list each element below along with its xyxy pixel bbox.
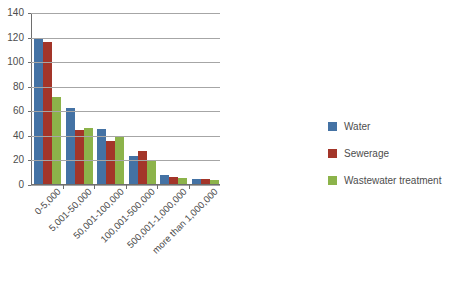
bar-group bbox=[160, 13, 187, 184]
legend-swatch-icon bbox=[328, 176, 337, 185]
y-axis-tick bbox=[28, 38, 31, 39]
bar-group bbox=[192, 13, 219, 184]
bar bbox=[160, 175, 169, 184]
y-axis-tick bbox=[28, 111, 31, 112]
bar bbox=[75, 130, 84, 184]
legend-swatch-icon bbox=[328, 149, 337, 158]
gridline bbox=[31, 13, 220, 14]
y-axis-tick bbox=[28, 136, 31, 137]
y-axis-tick bbox=[28, 160, 31, 161]
bar bbox=[52, 97, 61, 184]
bar bbox=[192, 179, 201, 184]
y-axis-tick bbox=[28, 62, 31, 63]
legend-label: Sewerage bbox=[344, 148, 389, 159]
bar-chart: 020406080100120140 0-5,0005,001-50,00050… bbox=[0, 0, 457, 282]
bar bbox=[106, 141, 115, 184]
x-axis-category-labels: 0-5,0005,001-50,00050,001-100,000100,001… bbox=[31, 186, 231, 282]
bar bbox=[147, 161, 156, 184]
gridline bbox=[31, 38, 220, 39]
bar bbox=[210, 180, 219, 184]
plot-area bbox=[31, 13, 220, 185]
plot-wrapper: 020406080100120140 0-5,0005,001-50,00050… bbox=[0, 0, 320, 282]
bar-groups bbox=[32, 13, 220, 184]
legend-item[interactable]: Water bbox=[328, 113, 457, 140]
bar-group bbox=[34, 13, 61, 184]
y-axis-tick-label: 60 bbox=[13, 106, 24, 116]
gridline bbox=[31, 160, 220, 161]
bar bbox=[97, 129, 106, 184]
y-axis-tick-label: 20 bbox=[13, 155, 24, 165]
y-axis-tick bbox=[28, 13, 31, 14]
y-axis-tick bbox=[28, 87, 31, 88]
legend-label: Wastewater treatment bbox=[344, 175, 441, 186]
bar bbox=[66, 108, 75, 184]
legend-item[interactable]: Wastewater treatment bbox=[328, 167, 457, 194]
gridline bbox=[31, 111, 220, 112]
gridline bbox=[31, 87, 220, 88]
legend-swatch-icon bbox=[328, 122, 337, 131]
legend-label: Water bbox=[344, 121, 370, 132]
y-axis-tick-label: 120 bbox=[7, 33, 24, 43]
y-axis-tick-label: 40 bbox=[13, 131, 24, 141]
bar bbox=[178, 178, 187, 184]
x-axis-category-label: 0-5,000 bbox=[32, 186, 63, 217]
bar-group bbox=[129, 13, 156, 184]
y-axis-tick-label: 140 bbox=[7, 8, 24, 18]
bar bbox=[169, 177, 178, 184]
bar-group bbox=[97, 13, 124, 184]
chart-legend: WaterSewerageWastewater treatment bbox=[328, 113, 457, 194]
y-axis-tick-label: 0 bbox=[18, 180, 24, 190]
gridline bbox=[31, 62, 220, 63]
bar bbox=[138, 151, 147, 184]
y-axis-tick-label: 80 bbox=[13, 82, 24, 92]
y-axis-tick-labels: 020406080100120140 bbox=[0, 13, 27, 185]
bar bbox=[201, 179, 210, 184]
y-axis-tick-label: 100 bbox=[7, 57, 24, 67]
gridline bbox=[31, 136, 220, 137]
bar-group bbox=[66, 13, 93, 184]
legend-item[interactable]: Sewerage bbox=[328, 140, 457, 167]
